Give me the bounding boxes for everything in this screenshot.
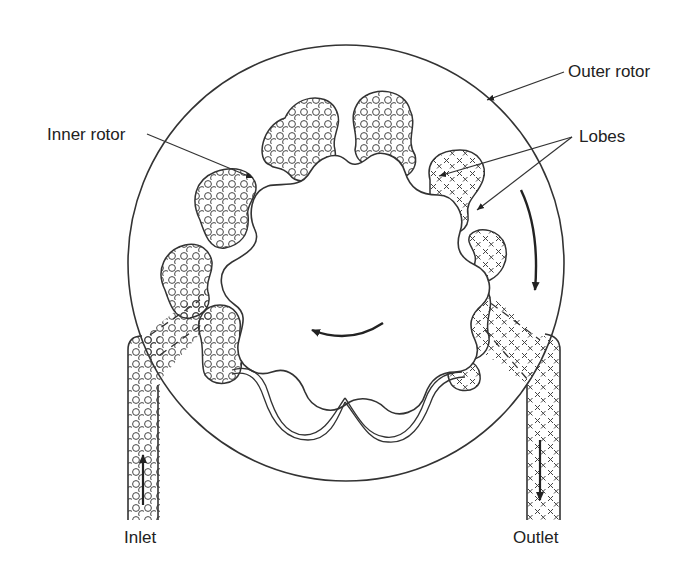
outer-rotor-leader-line [487,72,564,100]
lobes-label: Lobes [579,127,625,147]
outlet-label: Outlet [513,528,558,548]
inlet-label: Inlet [124,528,156,548]
gerotor-pump-diagram [0,0,695,568]
inner-rotor-leader-line [147,134,253,178]
outer-rotation-arrow-icon [521,190,536,290]
outer-rotor-label: Outer rotor [568,62,650,82]
inner-rotor-label: Inner rotor [47,125,125,145]
